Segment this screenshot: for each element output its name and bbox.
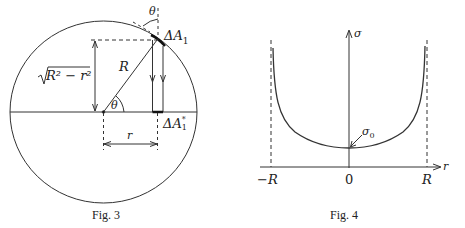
sigma0-label: σ0 xyxy=(362,126,375,140)
center-dot xyxy=(102,111,105,114)
y-axis-label: σ xyxy=(354,28,362,39)
x-tick-r: R xyxy=(422,173,432,186)
delta-a1-arc xyxy=(151,35,165,46)
fig4-chart xyxy=(260,30,441,170)
figures-canvas xyxy=(0,0,465,228)
radius-label: R xyxy=(119,60,129,73)
x-tick-minus-r: −R xyxy=(257,173,278,186)
theta-center-label: θ xyxy=(111,100,118,111)
theta-top-label: θ xyxy=(149,6,156,17)
r-label: r xyxy=(127,130,132,141)
delta-a1-star-label: ΔA*1 xyxy=(163,116,187,132)
fig3-caption: Fig. 3 xyxy=(92,208,120,223)
delta-a1-label: ΔA1 xyxy=(164,29,189,46)
sigma0-pointer xyxy=(351,135,362,146)
fig4-caption: Fig. 4 xyxy=(330,208,358,223)
sqrt-expression-label: R² − r² xyxy=(46,69,92,82)
theta-arc-top xyxy=(143,19,158,26)
x-axis-label: r xyxy=(443,161,448,172)
x-tick-zero: 0 xyxy=(345,173,353,186)
